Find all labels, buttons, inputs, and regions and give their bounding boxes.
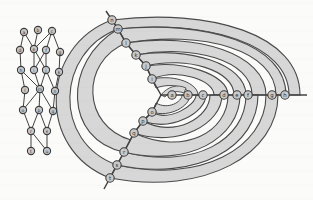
graph-node[interactable]: l [122, 39, 130, 47]
graph-node[interactable]: p [35, 106, 42, 113]
node-label: d [222, 92, 225, 98]
node-label: l [125, 40, 126, 46]
node-label: q [132, 130, 135, 137]
graph-node[interactable]: f [42, 46, 49, 53]
graph-node[interactable]: u [43, 147, 50, 154]
node-label: h [20, 68, 23, 73]
graph-node[interactable]: i [148, 75, 156, 83]
node-label: r [30, 129, 32, 134]
graph-node[interactable]: h [17, 66, 24, 73]
graph-node[interactable]: o [148, 108, 156, 116]
node-label: g [270, 92, 273, 99]
node-label: o [22, 108, 25, 113]
node-label: c [202, 92, 205, 98]
graph-node[interactable]: n [108, 16, 116, 24]
node-label: s [116, 162, 119, 168]
graph-node[interactable]: b [184, 91, 192, 99]
graph-node[interactable]: g [268, 91, 276, 99]
graph-node[interactable]: m [114, 25, 122, 33]
node-label: n [54, 89, 57, 94]
node-label: j [44, 68, 46, 73]
node-label: p [38, 108, 41, 113]
node-label: i [151, 76, 152, 82]
graph-node[interactable]: l [21, 86, 28, 93]
graph-node[interactable]: o [19, 106, 26, 113]
graph-node[interactable]: c [199, 91, 207, 99]
graph-node[interactable]: i [30, 66, 37, 73]
node-label: t [30, 149, 32, 154]
node-label: b [37, 28, 40, 33]
node-label: k [58, 70, 61, 75]
graph-node[interactable]: q [49, 107, 56, 114]
graph-node[interactable]: b [34, 26, 41, 33]
graph-node[interactable]: m [36, 85, 43, 92]
node-label: a [170, 92, 173, 98]
node-label: h [283, 92, 286, 98]
node-label: e [235, 92, 238, 98]
graph-node[interactable]: d [220, 91, 228, 99]
graph-node[interactable]: f [244, 91, 252, 99]
node-label: t [109, 175, 111, 181]
graph-node[interactable]: r [27, 127, 34, 134]
node-label: u [46, 149, 49, 154]
graph-node[interactable]: p [139, 117, 147, 125]
graph-node[interactable]: n [51, 87, 58, 94]
graph-node[interactable]: c [48, 27, 55, 34]
node-label: g [59, 50, 62, 55]
node-label: j [144, 63, 146, 70]
node-label: m [115, 26, 120, 32]
graph-node[interactable]: r [120, 148, 128, 156]
graph-node[interactable]: t [106, 174, 114, 182]
node-label: e [33, 47, 36, 52]
graph-node[interactable]: k [55, 68, 62, 75]
graph-node[interactable]: a [20, 28, 27, 35]
graph-node[interactable]: s [113, 161, 121, 169]
graph-node[interactable]: h [281, 91, 289, 99]
graph-node[interactable]: k [132, 51, 140, 59]
graph-node[interactable]: d [16, 46, 23, 53]
graph-node[interactable]: a [168, 91, 176, 99]
graph-node[interactable]: q [130, 129, 138, 137]
node-label: i [33, 68, 34, 73]
node-label: d [19, 48, 22, 53]
node-label: f [247, 92, 249, 98]
node-label: a [23, 30, 26, 35]
node-label: n [110, 17, 113, 23]
graph-node[interactable]: e [233, 91, 241, 99]
graph-node[interactable]: t [27, 147, 34, 154]
node-label: q [52, 109, 55, 114]
node-label: l [24, 88, 25, 93]
graph-node[interactable]: j [42, 66, 49, 73]
node-label: o [150, 109, 153, 115]
graph-node[interactable]: g [56, 48, 63, 55]
graph-figure: abcdefghijklmnopqrst abcdefghijklmnopqrs… [0, 0, 313, 200]
graph-node[interactable]: s [43, 127, 50, 134]
graph-node[interactable]: e [30, 45, 37, 52]
node-label: m [38, 87, 42, 92]
graph-node[interactable]: j [142, 62, 150, 70]
